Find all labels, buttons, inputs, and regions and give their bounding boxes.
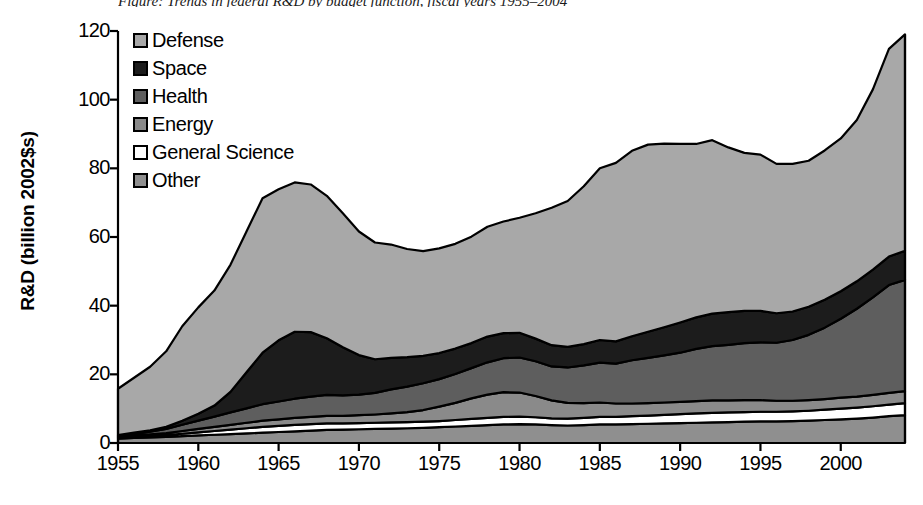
legend-label: Health: [152, 86, 207, 106]
x-tick-label: 1995: [725, 452, 795, 474]
chart-legend: DefenseSpaceHealthEnergyGeneral ScienceO…: [133, 26, 305, 198]
legend-swatch-icon: [133, 145, 148, 160]
x-tick-label: 1990: [645, 452, 715, 474]
y-tick-label: 120: [50, 20, 110, 40]
x-tick-label: 1960: [163, 452, 233, 474]
legend-item-defense[interactable]: Defense: [133, 26, 305, 54]
x-tick-label: 1980: [485, 452, 555, 474]
x-tick-label: 1985: [565, 452, 635, 474]
legend-item-health[interactable]: Health: [133, 82, 305, 110]
legend-label: Space: [152, 58, 207, 78]
legend-swatch-icon: [133, 89, 148, 104]
legend-item-other[interactable]: Other: [133, 166, 305, 194]
y-tick-label: 80: [50, 157, 110, 177]
x-tick-label: 1975: [404, 452, 474, 474]
rd-spending-stacked-area-chart: Figure: Trends in federal R&D by budget …: [0, 0, 923, 505]
legend-item-space[interactable]: Space: [133, 54, 305, 82]
y-axis-title: R&D (billion 2002$s): [17, 21, 39, 421]
y-axis-tick-labels: 020406080100120: [46, 0, 110, 505]
y-tick-label: 100: [50, 89, 110, 109]
legend-label: General Science: [152, 142, 294, 162]
y-tick-label: 0: [50, 432, 110, 452]
legend-label: Defense: [152, 30, 224, 50]
x-tick-label: 1955: [83, 452, 153, 474]
legend-label: Other: [152, 170, 200, 190]
legend-item-general-science[interactable]: General Science: [133, 138, 305, 166]
x-tick-label: 1965: [244, 452, 314, 474]
y-tick-label: 20: [50, 363, 110, 383]
clipped-caption-text: Figure: Trends in federal R&D by budget …: [118, 0, 818, 7]
y-tick-label: 60: [50, 226, 110, 246]
legend-swatch-icon: [133, 33, 148, 48]
legend-swatch-icon: [133, 173, 148, 188]
legend-swatch-icon: [133, 117, 148, 132]
legend-label: Energy: [152, 114, 213, 134]
x-tick-label: 1970: [324, 452, 394, 474]
legend-swatch-icon: [133, 61, 148, 76]
legend-item-energy[interactable]: Energy: [133, 110, 305, 138]
x-tick-label: 2000: [806, 452, 876, 474]
y-tick-label: 40: [50, 295, 110, 315]
